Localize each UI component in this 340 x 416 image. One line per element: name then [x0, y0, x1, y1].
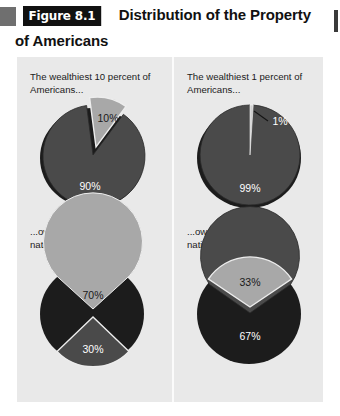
- pie-slice-label-99: 99%: [239, 182, 260, 194]
- figure-header: Figure 8.1 Distribution of the Property …: [0, 6, 340, 26]
- pie-slice-label-10: 10%: [97, 112, 118, 124]
- pie-chart-share-of-wealth-top-1-percent: 33% 67%: [192, 253, 308, 369]
- caption-top-left: The wealthiest 10 percent of Americans..…: [30, 71, 165, 96]
- header-right-rule: [334, 10, 338, 32]
- pie-chart-wealthiest-1-percent-population: 1% 99%: [192, 97, 308, 213]
- figure-column-left: The wealthiest 10 percent of Americans..…: [17, 57, 169, 402]
- figure-title-line2: of Americans: [15, 32, 108, 49]
- figure-number-badge: Figure 8.1: [23, 6, 101, 26]
- pie-slice-label-1: 1%: [272, 115, 287, 127]
- pie-slice-label-90: 90%: [79, 180, 100, 192]
- header-accent-swatch: [0, 7, 16, 26]
- pie-slice-label-30: 30%: [82, 343, 103, 355]
- pie-chart-share-of-wealth-top-10-percent: 70% 30%: [35, 253, 151, 369]
- figure-column-right: The wealthiest 1 percent of Americans...…: [174, 57, 326, 402]
- pie-slice-label-67: 67%: [239, 330, 260, 342]
- pie-slice-label-33: 33%: [239, 276, 260, 288]
- figure-panel: The wealthiest 10 percent of Americans..…: [17, 57, 323, 402]
- pie-slice-label-70: 70%: [82, 289, 103, 301]
- figure-title-line1: Distribution of the Property: [119, 6, 311, 23]
- caption-top-right: The wealthiest 1 percent of Americans...: [187, 71, 322, 96]
- figure-header-row: Figure 8.1 Distribution of the Property: [0, 6, 340, 26]
